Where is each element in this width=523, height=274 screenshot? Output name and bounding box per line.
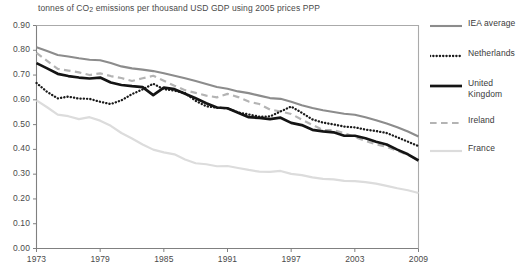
x-axis-label: 2009 bbox=[399, 254, 439, 264]
y-axis-label: 0.00 bbox=[2, 243, 30, 253]
x-axis-label: 1997 bbox=[271, 254, 311, 264]
legend-swatch-icon bbox=[430, 143, 462, 155]
series-line-united-kingdom bbox=[37, 63, 419, 160]
y-axis-label: 0.60 bbox=[2, 94, 30, 104]
series-line-iea-average bbox=[37, 47, 419, 136]
legend-item-france[interactable]: France bbox=[430, 143, 495, 155]
x-axis-label: 2003 bbox=[335, 254, 375, 264]
legend-swatch-icon bbox=[430, 115, 462, 127]
x-axis-label: 1973 bbox=[17, 254, 57, 264]
legend-swatch-icon bbox=[430, 78, 462, 90]
legend-swatch-icon bbox=[430, 18, 462, 30]
x-axis-label: 1985 bbox=[144, 254, 184, 264]
y-axis-label: 0.90 bbox=[2, 20, 30, 30]
y-axis-label: 0.50 bbox=[2, 119, 30, 129]
y-axis-label: 0.80 bbox=[2, 44, 30, 54]
legend-item-iea-average[interactable]: IEA average bbox=[430, 18, 515, 30]
y-axis-label: 0.40 bbox=[2, 143, 30, 153]
legend-label: France bbox=[468, 143, 495, 154]
legend-label: IEA average bbox=[468, 18, 515, 29]
legend-label: Ireland bbox=[468, 115, 495, 126]
y-axis-label: 0.70 bbox=[2, 69, 30, 79]
legend-label: United Kingdom bbox=[468, 78, 502, 99]
y-axis-label: 0.10 bbox=[2, 218, 30, 228]
plot-area bbox=[0, 0, 523, 274]
y-axis-label: 0.30 bbox=[2, 168, 30, 178]
legend-item-netherlands[interactable]: Netherlands bbox=[430, 48, 515, 60]
series-line-ireland bbox=[37, 53, 419, 160]
legend-item-ireland[interactable]: Ireland bbox=[430, 115, 495, 127]
series-line-france bbox=[37, 100, 419, 193]
legend-item-united-kingdom[interactable]: United Kingdom bbox=[430, 78, 502, 99]
legend-label: Netherlands bbox=[468, 48, 515, 59]
legend-swatch-icon bbox=[430, 48, 462, 60]
y-axis-label: 0.20 bbox=[2, 193, 30, 203]
x-axis-label: 1991 bbox=[208, 254, 248, 264]
x-axis-label: 1979 bbox=[80, 254, 120, 264]
chart-container: tonnes of CO2 emissions per thousand USD… bbox=[0, 0, 523, 274]
